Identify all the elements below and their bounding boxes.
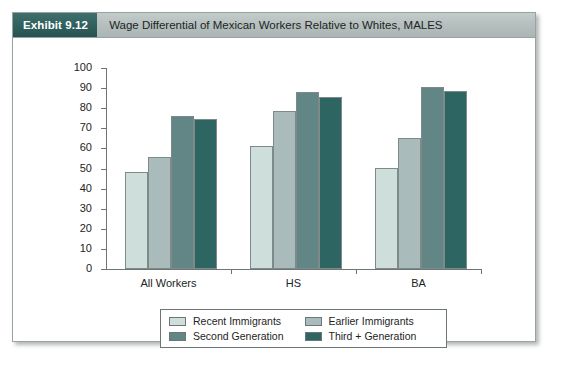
y-tick-label: 100 (66, 60, 92, 75)
legend-swatch-icon (305, 332, 322, 341)
bar (296, 92, 319, 269)
x-axis-line (106, 269, 481, 270)
x-tick (231, 269, 232, 274)
legend-row: Recent Immigrants Earlier Immigrants (169, 315, 440, 327)
y-tick-label: 0 (66, 261, 92, 276)
bar (125, 172, 148, 269)
y-tick-label: 60 (66, 140, 92, 155)
legend-row: Second Generation Third + Generation (169, 330, 440, 342)
legend-label: Recent Immigrants (193, 315, 281, 327)
y-tick-label: 80 (66, 100, 92, 115)
legend-item-second-generation: Second Generation (169, 330, 305, 342)
y-tick (101, 108, 106, 109)
bar (319, 97, 342, 269)
y-tick (101, 68, 106, 69)
y-tick (101, 209, 106, 210)
y-tick-label: 20 (66, 221, 92, 236)
bar (250, 146, 273, 269)
exhibit-number-badge: Exhibit 9.12 (13, 13, 97, 37)
legend-label: Earlier Immigrants (329, 315, 414, 327)
legend-swatch-icon (169, 332, 186, 341)
y-tick (101, 269, 106, 270)
y-tick (101, 128, 106, 129)
y-tick (101, 189, 106, 190)
plot-area: 0102030405060708090100 All WorkersHSBA (106, 68, 481, 269)
bar (444, 91, 467, 269)
bar (273, 111, 296, 269)
y-axis-line (106, 68, 107, 269)
legend-swatch-icon (305, 317, 322, 326)
x-tick (481, 269, 482, 274)
legend-swatch-icon (169, 317, 186, 326)
y-tick (101, 148, 106, 149)
y-tick-label: 40 (66, 181, 92, 196)
category-label: BA (356, 277, 481, 289)
y-tick-label: 90 (66, 80, 92, 95)
bar (194, 119, 217, 269)
y-tick (101, 88, 106, 89)
category-label: HS (231, 277, 356, 289)
bar (148, 157, 171, 269)
bar (421, 87, 444, 269)
exhibit-header: Exhibit 9.12 Wage Differential of Mexica… (13, 13, 535, 38)
bar (375, 168, 398, 270)
legend-item-recent-immigrants: Recent Immigrants (169, 315, 305, 327)
x-tick (356, 269, 357, 274)
y-tick-label: 10 (66, 241, 92, 256)
exhibit-title: Wage Differential of Mexican Workers Rel… (97, 13, 442, 37)
y-tick-label: 70 (66, 120, 92, 135)
legend-label: Second Generation (193, 330, 283, 342)
exhibit-card: Exhibit 9.12 Wage Differential of Mexica… (12, 12, 536, 342)
y-tick (101, 229, 106, 230)
bar (171, 116, 194, 269)
legend-label: Third + Generation (329, 330, 417, 342)
y-tick-label: 50 (66, 161, 92, 176)
category-label: All Workers (106, 277, 231, 289)
legend-item-earlier-immigrants: Earlier Immigrants (305, 315, 441, 327)
y-tick-label: 30 (66, 201, 92, 216)
y-tick (101, 249, 106, 250)
chart-body: 0102030405060708090100 All WorkersHSBA R… (13, 38, 535, 341)
bar (398, 138, 421, 269)
legend-item-third-generation: Third + Generation (305, 330, 441, 342)
chart-legend: Recent Immigrants Earlier Immigrants Sec… (160, 309, 447, 348)
y-tick (101, 169, 106, 170)
